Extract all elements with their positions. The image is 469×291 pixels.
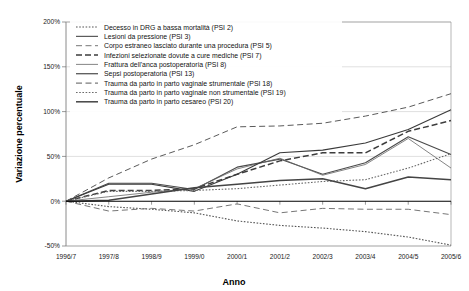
legend-label: Lesioni da pressione (PSI 3) [104, 33, 191, 41]
x-tick-label: 2000/1 [227, 253, 248, 260]
legend-label: Sepsi postoperatoria (PSI 13) [104, 70, 194, 78]
chart-legend: Decesso in DRG a bassa mortalità (PSI 2)… [70, 21, 342, 114]
y-tick-label: 150% [43, 63, 60, 70]
x-tick-label: 2003/4 [355, 253, 376, 260]
legend-item[interactable]: Trauma da parto in parto vaginale strume… [76, 80, 272, 88]
legend-label: Decesso in DRG a bassa mortalità (PSI 2) [104, 24, 233, 32]
y-axis-tick-labels: 200%150%100%50%0%-50% [43, 18, 60, 249]
x-tick-label: 2004/5 [398, 253, 419, 260]
y-tick-label: 0% [50, 198, 60, 205]
x-tick-label: 2002/3 [313, 253, 334, 260]
y-axis-ticks [62, 22, 66, 246]
legend-item[interactable]: Corpo estraneo lasciato durante una proc… [76, 42, 272, 50]
x-axis-tick-labels: 1996/71997/81998/91999/02000/12001/22002… [56, 253, 462, 260]
legend-label: Trauma da parto in parto vaginale strume… [104, 80, 272, 88]
x-tick-label: 1999/0 [184, 253, 205, 260]
y-tick-label: -50% [45, 242, 61, 249]
x-tick-label: 1997/8 [99, 253, 120, 260]
chart-figure: 200%150%100%50%0%-50% 1996/71997/81998/9… [0, 0, 469, 291]
y-tick-label: 200% [43, 18, 60, 25]
x-tick-label: 2005/6 [441, 253, 462, 260]
legend-label: Corpo estraneo lasciato durante una proc… [104, 42, 272, 50]
x-tick-label: 1996/7 [56, 253, 77, 260]
x-tick-label: 1998/9 [141, 253, 162, 260]
legend-label: Trauma da parto in parto cesareo (PSI 20… [104, 98, 233, 106]
y-axis-title: Variazione percentuale [14, 85, 24, 183]
legend-item[interactable]: Infezioni selezionate dovute a cure medi… [76, 52, 261, 60]
legend-label: Infezioni selezionate dovute a cure medi… [104, 52, 261, 60]
x-tick-label: 2001/2 [270, 253, 291, 260]
legend-label: Trauma da parto in parto vaginale non st… [104, 89, 286, 97]
line-chart: 200%150%100%50%0%-50% 1996/71997/81998/9… [0, 0, 469, 291]
y-tick-label: 50% [47, 153, 60, 160]
x-axis-title: Anno [223, 277, 246, 287]
y-tick-label: 100% [43, 108, 60, 115]
legend-item[interactable]: Trauma da parto in parto vaginale non st… [76, 89, 286, 97]
legend-label: Frattura dell'anca postoperatoria (PSI 8… [104, 61, 226, 69]
